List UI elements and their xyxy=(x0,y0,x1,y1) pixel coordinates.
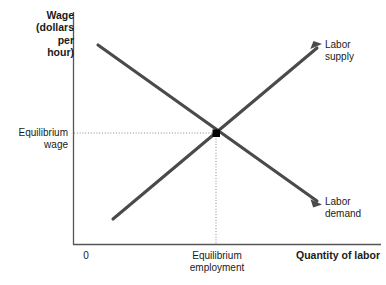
equilibrium-employment-label: Equilibrium employment xyxy=(171,250,263,274)
labor-market-equilibrium-chart: Wage (dollars per hour) Equilibrium wage… xyxy=(0,0,386,285)
equilibrium-point-marker xyxy=(213,130,221,138)
labor-demand-curve xyxy=(98,45,322,207)
equilibrium-wage-label: Equilibrium wage xyxy=(2,127,68,151)
y-axis-title: Wage (dollars per hour) xyxy=(12,9,74,59)
labor-supply-label: Labor supply xyxy=(325,39,383,63)
x-axis-title: Quantity of labor xyxy=(296,249,384,261)
origin-label: 0 xyxy=(78,250,94,262)
labor-demand-label: Labor demand xyxy=(325,196,383,220)
